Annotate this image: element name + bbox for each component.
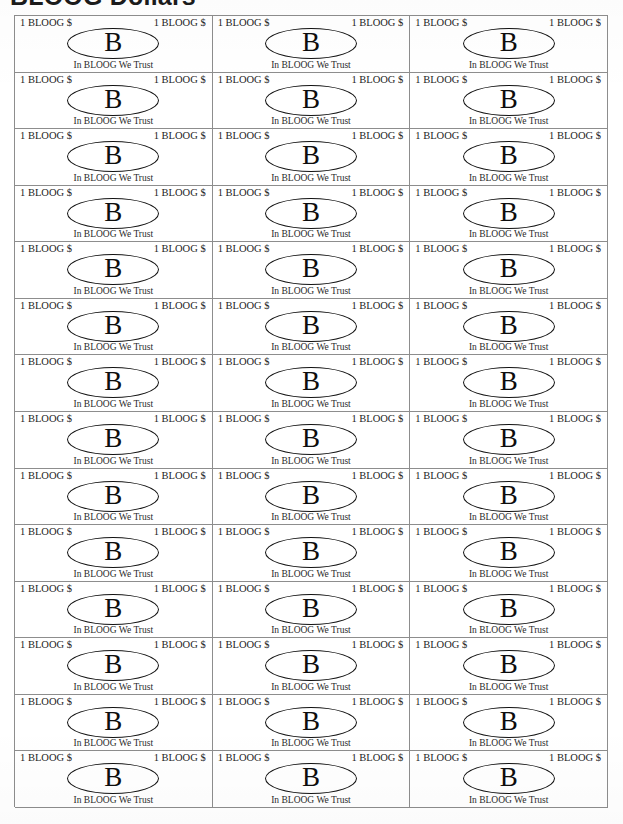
denomination-label-right: 1 BLOOG $ — [351, 526, 403, 538]
denomination-label-left: 1 BLOOG $ — [415, 639, 467, 651]
denomination-label-left: 1 BLOOG $ — [218, 696, 270, 708]
bloog-seal-icon: B — [67, 367, 159, 398]
bill-motto: In BLOOG We Trust — [15, 286, 212, 297]
denomination-label-right: 1 BLOOG $ — [154, 696, 206, 708]
seal-letter: B — [463, 424, 555, 455]
denomination-label-left: 1 BLOOG $ — [415, 526, 467, 538]
bloog-seal-icon: B — [67, 650, 159, 681]
bloog-dollar-bill: 1 BLOOG $1 BLOOG $BIn BLOOG We Trust — [410, 242, 608, 299]
denomination-label-right: 1 BLOOG $ — [549, 17, 601, 29]
bloog-seal-icon: B — [265, 424, 357, 455]
bloog-seal-icon: B — [463, 367, 555, 398]
seal-letter: B — [265, 537, 357, 568]
denomination-label-right: 1 BLOOG $ — [351, 639, 403, 651]
bloog-dollar-bill: 1 BLOOG $1 BLOOG $BIn BLOOG We Trust — [15, 638, 213, 695]
bloog-dollar-bill: 1 BLOOG $1 BLOOG $BIn BLOOG We Trust — [213, 751, 411, 808]
denomination-label-right: 1 BLOOG $ — [154, 17, 206, 29]
denomination-label-right: 1 BLOOG $ — [549, 74, 601, 86]
bloog-seal-icon: B — [265, 537, 357, 568]
denomination-label-right: 1 BLOOG $ — [351, 752, 403, 764]
seal-letter: B — [265, 254, 357, 285]
denomination-label-right: 1 BLOOG $ — [154, 356, 206, 368]
denomination-label-left: 1 BLOOG $ — [415, 130, 467, 142]
seal-letter: B — [463, 254, 555, 285]
denomination-label-right: 1 BLOOG $ — [351, 300, 403, 312]
bloog-seal-icon: B — [463, 311, 555, 342]
bloog-dollar-bill: 1 BLOOG $1 BLOOG $BIn BLOOG We Trust — [15, 582, 213, 639]
seal-letter: B — [463, 707, 555, 738]
seal-letter: B — [67, 367, 159, 398]
denomination-label-left: 1 BLOOG $ — [20, 639, 72, 651]
bloog-dollar-bill: 1 BLOOG $1 BLOOG $BIn BLOOG We Trust — [213, 186, 411, 243]
bill-motto: In BLOOG We Trust — [410, 399, 607, 410]
bloog-dollar-bill: 1 BLOOG $1 BLOOG $BIn BLOOG We Trust — [15, 16, 213, 73]
denomination-label-left: 1 BLOOG $ — [20, 74, 72, 86]
denomination-label-right: 1 BLOOG $ — [154, 243, 206, 255]
bill-motto: In BLOOG We Trust — [410, 738, 607, 749]
bill-motto: In BLOOG We Trust — [15, 512, 212, 523]
bill-motto: In BLOOG We Trust — [213, 286, 410, 297]
bill-motto: In BLOOG We Trust — [213, 795, 410, 806]
denomination-label-right: 1 BLOOG $ — [351, 583, 403, 595]
bloog-dollar-bill: 1 BLOOG $1 BLOOG $BIn BLOOG We Trust — [410, 16, 608, 73]
seal-letter: B — [67, 85, 159, 116]
bloog-seal-icon: B — [463, 707, 555, 738]
seal-letter: B — [67, 311, 159, 342]
denomination-label-left: 1 BLOOG $ — [218, 639, 270, 651]
denomination-label-right: 1 BLOOG $ — [549, 639, 601, 651]
bloog-dollar-bill: 1 BLOOG $1 BLOOG $BIn BLOOG We Trust — [213, 242, 411, 299]
bloog-dollar-bill: 1 BLOOG $1 BLOOG $BIn BLOOG We Trust — [15, 129, 213, 186]
denomination-label-left: 1 BLOOG $ — [218, 187, 270, 199]
bloog-seal-icon: B — [265, 28, 357, 59]
bill-motto: In BLOOG We Trust — [15, 456, 212, 467]
bill-motto: In BLOOG We Trust — [410, 625, 607, 636]
bloog-dollar-bill: 1 BLOOG $1 BLOOG $BIn BLOOG We Trust — [213, 73, 411, 130]
bloog-dollar-bill: 1 BLOOG $1 BLOOG $BIn BLOOG We Trust — [410, 73, 608, 130]
denomination-label-left: 1 BLOOG $ — [218, 356, 270, 368]
denomination-label-right: 1 BLOOG $ — [154, 187, 206, 199]
denomination-label-left: 1 BLOOG $ — [20, 17, 72, 29]
bill-motto: In BLOOG We Trust — [15, 795, 212, 806]
bloog-seal-icon: B — [265, 650, 357, 681]
seal-letter: B — [265, 141, 357, 172]
denomination-label-left: 1 BLOOG $ — [415, 17, 467, 29]
bill-motto: In BLOOG We Trust — [15, 569, 212, 580]
denomination-label-right: 1 BLOOG $ — [154, 639, 206, 651]
bloog-seal-icon: B — [67, 141, 159, 172]
seal-letter: B — [67, 254, 159, 285]
seal-letter: B — [265, 594, 357, 625]
denomination-label-right: 1 BLOOG $ — [154, 526, 206, 538]
denomination-label-right: 1 BLOOG $ — [549, 752, 601, 764]
bloog-seal-icon: B — [265, 254, 357, 285]
denomination-label-right: 1 BLOOG $ — [154, 413, 206, 425]
bill-motto: In BLOOG We Trust — [213, 625, 410, 636]
denomination-label-left: 1 BLOOG $ — [415, 356, 467, 368]
bill-motto: In BLOOG We Trust — [410, 456, 607, 467]
bloog-seal-icon: B — [463, 85, 555, 116]
seal-letter: B — [265, 28, 357, 59]
denomination-label-right: 1 BLOOG $ — [351, 74, 403, 86]
bloog-seal-icon: B — [463, 537, 555, 568]
denomination-label-left: 1 BLOOG $ — [415, 696, 467, 708]
bill-motto: In BLOOG We Trust — [15, 682, 212, 693]
denomination-label-right: 1 BLOOG $ — [351, 696, 403, 708]
bloog-dollar-bill: 1 BLOOG $1 BLOOG $BIn BLOOG We Trust — [213, 582, 411, 639]
bloog-seal-icon: B — [67, 537, 159, 568]
bill-motto: In BLOOG We Trust — [213, 512, 410, 523]
denomination-label-left: 1 BLOOG $ — [20, 752, 72, 764]
seal-letter: B — [67, 537, 159, 568]
bill-motto: In BLOOG We Trust — [15, 229, 212, 240]
denomination-label-left: 1 BLOOG $ — [218, 130, 270, 142]
bloog-dollar-bill: 1 BLOOG $1 BLOOG $BIn BLOOG We Trust — [410, 129, 608, 186]
denomination-label-left: 1 BLOOG $ — [20, 583, 72, 595]
bloog-dollar-bill: 1 BLOOG $1 BLOOG $BIn BLOOG We Trust — [15, 73, 213, 130]
bill-motto: In BLOOG We Trust — [410, 60, 607, 71]
denomination-label-left: 1 BLOOG $ — [415, 187, 467, 199]
seal-letter: B — [265, 311, 357, 342]
bill-motto: In BLOOG We Trust — [213, 342, 410, 353]
bloog-seal-icon: B — [265, 198, 357, 229]
denomination-label-left: 1 BLOOG $ — [218, 526, 270, 538]
denomination-label-left: 1 BLOOG $ — [415, 470, 467, 482]
bloog-dollar-bill: 1 BLOOG $1 BLOOG $BIn BLOOG We Trust — [15, 242, 213, 299]
denomination-label-right: 1 BLOOG $ — [549, 583, 601, 595]
